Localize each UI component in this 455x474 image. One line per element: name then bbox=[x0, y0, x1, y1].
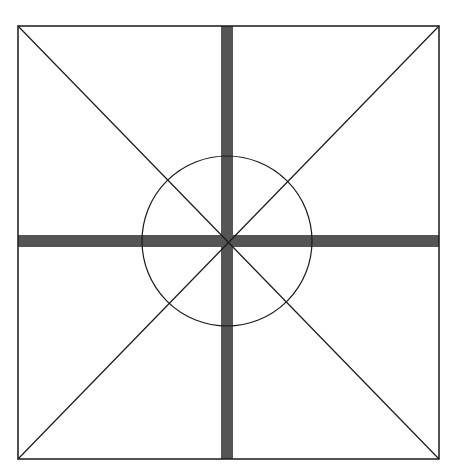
horizontal-bar bbox=[18, 235, 439, 247]
diagram-canvas bbox=[0, 0, 455, 474]
